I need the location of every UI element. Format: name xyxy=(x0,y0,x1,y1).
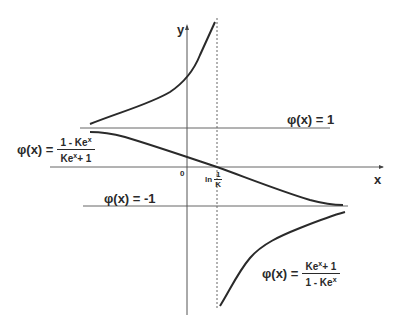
asymptote-label-upper: φ(x) = 1 xyxy=(287,113,334,126)
formula-right-numerator: Kex+ 1 xyxy=(303,258,340,273)
formula-left-denominator: Kex+ 1 xyxy=(58,150,95,165)
formula-right: φ(x) = Kex+ 1 1 - Kex xyxy=(262,258,340,289)
x-axis-arrow-icon xyxy=(379,165,384,169)
asymptote-x-label: ln 1 K xyxy=(205,170,222,189)
formula-right-lhs: φ(x) = xyxy=(262,266,298,281)
origin-label: 0 xyxy=(180,170,184,178)
y-axis-label: y xyxy=(177,23,184,36)
asymptote-label-lower: φ(x) = -1 xyxy=(104,192,156,205)
x-axis-label: x xyxy=(374,173,381,186)
ln-fraction: 1 K xyxy=(214,170,222,189)
formula-left-lhs: φ(x) = xyxy=(17,142,53,157)
formula-right-fraction: Kex+ 1 1 - Kex xyxy=(302,258,339,289)
ln-text: ln xyxy=(205,175,212,184)
formula-left: φ(x) = 1 - Kex Kex+ 1 xyxy=(17,134,95,165)
formula-right-denominator: 1 - Kex xyxy=(302,274,339,289)
y-axis-arrow-icon xyxy=(185,24,189,30)
formula-left-numerator: 1 - Kex xyxy=(57,134,94,149)
formula-left-fraction: 1 - Kex Kex+ 1 xyxy=(57,134,94,165)
ln-fraction-num: 1 xyxy=(216,170,220,179)
curve-upper-left-branch xyxy=(90,22,215,124)
ln-fraction-den: K xyxy=(215,180,221,189)
